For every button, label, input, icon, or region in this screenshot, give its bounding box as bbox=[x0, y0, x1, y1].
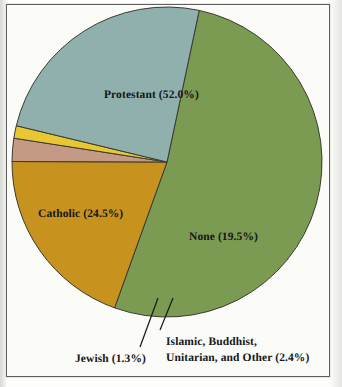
slice-label-other-line-2: Unitarian, and Other (2.4%) bbox=[166, 352, 309, 364]
slice-label-catholic: Catholic (24.5%) bbox=[38, 208, 123, 220]
slice-label-protestant: Protestant (52.0%) bbox=[104, 89, 199, 101]
slice-label-jewish: Jewish (1.3%) bbox=[75, 353, 146, 365]
pie-chart: Protestant (52.0%) Catholic (24.5%) None… bbox=[0, 0, 342, 387]
slice-label-other-religions: Islamic, Buddhist, Unitarian, and Other … bbox=[166, 334, 336, 367]
scanned-page: Protestant (52.0%) Catholic (24.5%) None… bbox=[0, 0, 342, 387]
slice-label-other-line-1: Islamic, Buddhist, bbox=[166, 336, 257, 348]
pie-chart-svg bbox=[0, 0, 342, 387]
slice-label-none: None (19.5%) bbox=[189, 231, 258, 243]
